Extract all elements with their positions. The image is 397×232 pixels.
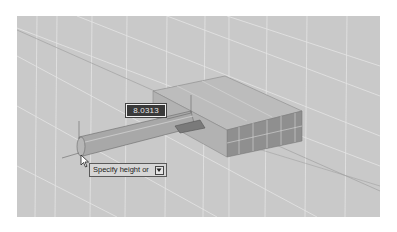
dynamic-input-value[interactable]: 8.0313: [127, 105, 165, 116]
3d-scene[interactable]: [17, 16, 380, 217]
down-arrow-icon: [156, 167, 162, 173]
options-dropdown-button[interactable]: [155, 166, 164, 175]
command-prompt-tooltip: Specify height or: [89, 163, 167, 177]
dynamic-input-field[interactable]: 8.0313: [125, 103, 167, 118]
drawing-viewport[interactable]: 8.0313 Specify height or: [17, 16, 380, 217]
tooltip-prompt-text: Specify height or: [93, 164, 149, 176]
